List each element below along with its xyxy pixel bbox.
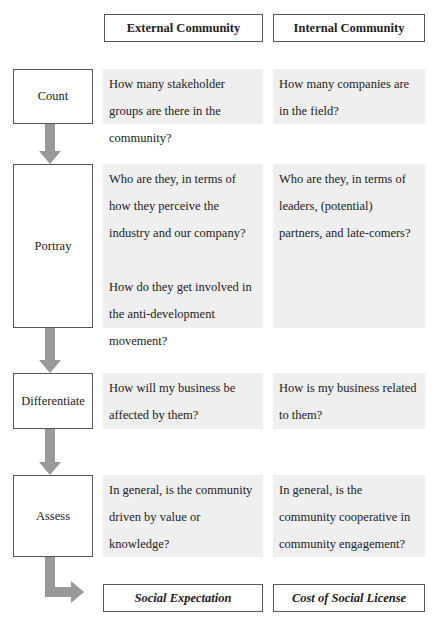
down-arrow-icon (39, 429, 61, 475)
output-cost-of-social-license: Cost of Social License (273, 584, 425, 612)
question-text: How many stakeholder groups are there in… (109, 71, 257, 152)
question-text: In general, is the community driven by v… (109, 477, 257, 558)
step-assess: Assess (13, 475, 93, 557)
cell-count-external: How many stakeholder groups are there in… (103, 69, 263, 124)
header-internal-community: Internal Community (273, 14, 425, 42)
question-text: How will my business be affected by them… (109, 375, 257, 429)
cell-assess-internal: In general, is the community cooperative… (273, 475, 425, 557)
question-text: How do they get involved in the anti-dev… (109, 274, 257, 355)
down-arrow-icon (39, 328, 61, 373)
question-text: Who are they, in terms of how they perce… (109, 166, 257, 247)
cell-assess-external: In general, is the community driven by v… (103, 475, 263, 557)
output-social-expectation: Social Expectation (103, 584, 263, 612)
step-differentiate: Differentiate (13, 373, 93, 429)
question-text: Who are they, in terms of leaders, (pote… (279, 166, 419, 247)
cell-differentiate-internal: How is my business related to them? (273, 373, 425, 429)
header-external-community: External Community (104, 14, 263, 42)
cell-count-internal: How many companies are in the field? (273, 69, 425, 124)
cell-differentiate-external: How will my business be affected by them… (103, 373, 263, 429)
step-portray: Portray (13, 164, 93, 328)
question-text: In general, is the community cooperative… (279, 477, 419, 558)
question-text: How many companies are in the field? (279, 71, 419, 125)
cell-portray-external: Who are they, in terms of how they perce… (103, 164, 263, 328)
step-count: Count (13, 69, 93, 124)
question-text: How is my business related to them? (279, 375, 419, 429)
down-arrow-icon (39, 124, 61, 164)
elbow-right-arrow-icon (45, 557, 85, 605)
cell-portray-internal: Who are they, in terms of leaders, (pote… (273, 164, 425, 328)
